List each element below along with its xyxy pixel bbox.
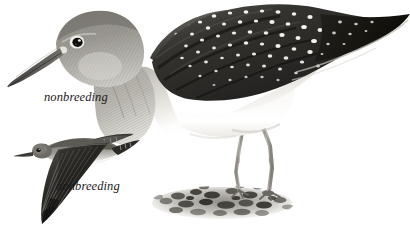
ground-patch — [152, 184, 294, 219]
eye — [72, 38, 82, 47]
head — [14, 143, 52, 158]
bill — [7, 47, 63, 87]
illustration-plate: nonbreeding nonbreeding — [0, 0, 410, 228]
label-nonbreeding-standing: nonbreeding — [44, 91, 108, 104]
label-nonbreeding-flying: nonbreeding — [56, 180, 120, 193]
eye — [36, 148, 40, 152]
bird-illustration-svg — [0, 0, 410, 228]
